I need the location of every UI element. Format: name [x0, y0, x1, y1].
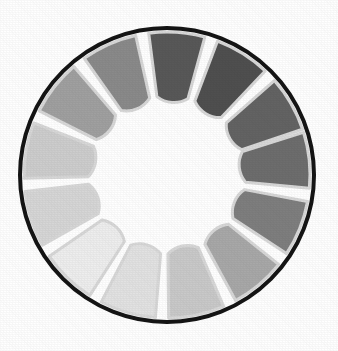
radial-step-wedge	[0, 0, 338, 351]
figure-canvas	[0, 0, 338, 351]
center-hub	[110, 118, 224, 232]
